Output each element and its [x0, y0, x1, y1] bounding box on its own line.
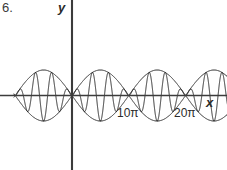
problem-number-label: 6.	[2, 1, 13, 14]
y-axis-label: y	[58, 1, 65, 14]
x-tick-label-20pi: 20π	[174, 107, 196, 119]
beat-waveform-figure: 6. y x 10π 20π	[0, 0, 227, 170]
x-axis-label: x	[206, 96, 213, 109]
x-tick-label-10pi: 10π	[117, 107, 139, 119]
plot-canvas	[0, 0, 227, 170]
